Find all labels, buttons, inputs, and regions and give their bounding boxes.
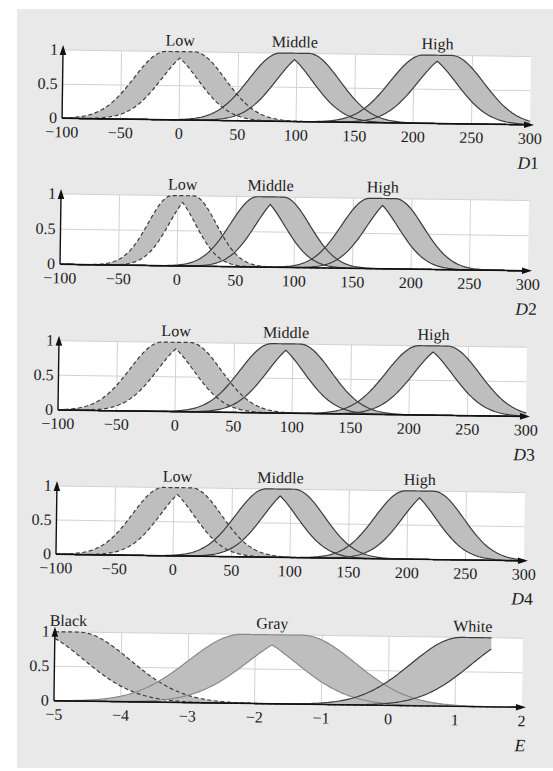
- x-tick-label: 0: [169, 561, 177, 578]
- figure: LowMiddleHigh−100−5005010015020025030000…: [0, 0, 553, 771]
- set-label-low: Low: [168, 175, 198, 192]
- x-axis-label: E: [514, 735, 526, 755]
- x-tick-label: 150: [336, 563, 360, 580]
- x-tick-label: 50: [223, 562, 239, 579]
- x-tick-label: 0: [175, 125, 183, 142]
- set-label-high: High: [404, 471, 436, 489]
- x-tick-label: 250: [457, 275, 481, 292]
- x-tick-label: 200: [397, 420, 421, 437]
- x-tick-label: 0: [384, 710, 392, 727]
- y-axis-line: [54, 632, 55, 701]
- y-tick-label: 1: [44, 477, 52, 494]
- set-label-middle: Middle: [263, 324, 309, 342]
- x-tick-label: 2: [518, 712, 526, 729]
- x-tick-label: 50: [227, 272, 243, 289]
- x-tick-label: 250: [453, 565, 477, 582]
- x-tick-label: 250: [459, 129, 483, 146]
- y-tick-label: 1: [46, 331, 54, 348]
- set-label-low: Low: [163, 467, 193, 484]
- x-tick-label: 150: [338, 419, 362, 436]
- x-tick-label: 300: [518, 130, 542, 147]
- x-tick-label: −3: [179, 707, 196, 724]
- set-label-black: Black: [50, 612, 88, 630]
- set-label-high: High: [417, 326, 449, 344]
- set-label-high: High: [367, 178, 399, 196]
- x-axis-label-index: 3: [526, 445, 535, 465]
- x-tick-label: 150: [340, 273, 364, 290]
- y-tick-label: 0: [43, 545, 51, 562]
- x-axis-label-variable: D: [514, 299, 528, 319]
- y-tick-label: 0: [49, 109, 57, 126]
- x-tick-label: 100: [284, 126, 308, 143]
- x-axis-label-variable: D: [510, 589, 524, 609]
- set-label-high: High: [421, 35, 453, 53]
- x-tick-label: 200: [399, 274, 423, 291]
- x-tick-label: 300: [516, 276, 540, 293]
- y-tick-label: 1: [50, 41, 58, 58]
- x-tick-label: 50: [229, 126, 245, 143]
- x-tick-label: 150: [342, 127, 366, 144]
- x-tick-label: −50: [108, 124, 133, 141]
- x-axis-label: D2: [514, 299, 537, 319]
- x-tick-label: 100: [282, 272, 306, 289]
- y-tick-label: 0.5: [29, 657, 49, 674]
- y-tick-label: 0: [45, 401, 53, 418]
- x-axis-label-variable: D: [516, 153, 530, 173]
- x-tick-label: 100: [280, 418, 304, 435]
- x-tick-label: 200: [401, 128, 425, 145]
- x-axis-label-index: 2: [528, 299, 537, 319]
- y-tick-label: 0: [41, 692, 49, 709]
- y-tick-label: 1: [48, 185, 56, 202]
- x-tick-label: 50: [225, 417, 241, 434]
- x-tick-label: 300: [514, 421, 538, 438]
- set-label-middle: Middle: [257, 469, 303, 487]
- y-tick-label: 0.5: [31, 511, 51, 528]
- set-label-gray: Gray: [256, 615, 288, 633]
- y-tick-label: 0: [47, 255, 55, 272]
- x-tick-label: −50: [104, 416, 129, 433]
- y-tick-label: 0.5: [33, 366, 53, 383]
- x-tick-label: −1: [313, 709, 330, 726]
- x-axis-label: D1: [516, 153, 539, 173]
- set-label-low: Low: [161, 322, 191, 339]
- x-tick-label: 100: [278, 562, 302, 579]
- x-axis-label: D4: [510, 589, 533, 609]
- y-axis-line: [56, 486, 57, 554]
- y-tick-label: 1: [42, 623, 50, 640]
- x-axis-label-index: 4: [524, 589, 533, 609]
- set-label-white: White: [453, 617, 492, 635]
- y-axis-line: [62, 50, 63, 118]
- x-tick-label: 200: [395, 564, 419, 581]
- x-tick-label: −2: [246, 708, 263, 725]
- x-axis-label-variable: D: [512, 444, 526, 464]
- x-axis-label-index: 1: [530, 153, 539, 173]
- set-label-middle: Middle: [272, 33, 318, 51]
- y-tick-label: 0.5: [37, 75, 57, 92]
- set-label-middle: Middle: [247, 177, 293, 195]
- x-axis-label-variable: E: [514, 735, 526, 755]
- x-tick-label: −50: [106, 270, 131, 287]
- y-axis-line: [60, 194, 61, 264]
- x-axis-label: D3: [512, 444, 535, 464]
- x-tick-label: −4: [112, 707, 129, 724]
- x-tick-label: 0: [171, 417, 179, 434]
- x-tick-label: 250: [455, 421, 479, 438]
- x-tick-label: 0: [173, 271, 181, 288]
- x-tick-label: −50: [102, 560, 127, 577]
- y-axis-line: [58, 341, 59, 410]
- x-tick-label: 1: [451, 711, 459, 728]
- x-tick-label: 300: [512, 566, 536, 583]
- y-tick-label: 0.5: [35, 220, 55, 237]
- set-label-low: Low: [165, 31, 195, 48]
